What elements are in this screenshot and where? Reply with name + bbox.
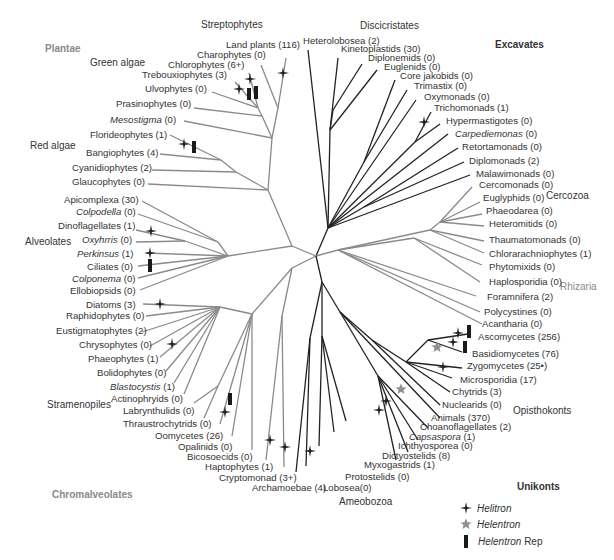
svg-text:Helentron: Helentron xyxy=(477,519,521,530)
taxon-label: Foramnifera (2) xyxy=(487,291,553,302)
taxon-label: Hypermastigotes (0) xyxy=(446,115,532,126)
legend-helentron-rep: Helentron Rep xyxy=(464,535,543,548)
helentron-icon xyxy=(461,519,472,530)
taxon-label: Bolidophytes (0) xyxy=(97,367,166,378)
helitron-icon xyxy=(233,83,245,95)
taxon-label: Haplosporidia (0) xyxy=(489,276,562,287)
taxon-label: Bangiophytes (4) xyxy=(86,147,159,158)
helitron-icon xyxy=(219,406,231,418)
taxon-label: Florideophytes (1) xyxy=(90,129,167,140)
helentron-icon xyxy=(396,384,407,395)
taxon-label: Capsaspora (1) xyxy=(409,431,475,442)
helitron-icon xyxy=(264,434,276,446)
taxon-label: Mesostigma (0) xyxy=(110,114,176,125)
taxon-label: Euglyphids (0) xyxy=(483,192,544,203)
helentron-rep-icon xyxy=(254,86,258,99)
helentron-rep-icon xyxy=(467,325,471,338)
taxon-label: Heterolobosea (2) xyxy=(303,35,380,46)
helitron-icon xyxy=(277,67,289,79)
taxon-label: Zygomycetes (25•) xyxy=(467,360,547,371)
taxon-label: Dictyostelids (8) xyxy=(382,450,450,461)
helitron-icon xyxy=(279,441,291,453)
taxon-label: Phaeophytes (1) xyxy=(88,353,158,364)
group-alveolates: Alveolates xyxy=(25,236,71,247)
taxon-label: Retortamonads (0) xyxy=(462,141,542,152)
taxon-label: Trebouxiophytes (3) xyxy=(142,69,227,80)
taxon-label: Lobosea(0) xyxy=(323,482,372,493)
phylogenetic-tree: Plantae Excavates Chromalveolates Unikon… xyxy=(0,0,614,560)
group-opisthokonts: Opisthokonts xyxy=(513,405,571,416)
taxon-label: Nuclearids (0) xyxy=(442,399,502,410)
legend: Helitron Helentron Helentron Rep xyxy=(460,502,543,548)
helentron-rep-icon xyxy=(148,259,152,272)
taxon-label: Chytrids (3) xyxy=(452,386,502,397)
group-red-algae: Red algae xyxy=(30,140,76,151)
taxon-label: Basidiomycetes (76) xyxy=(472,348,559,359)
taxon-label: Archamoebae (4) xyxy=(252,482,326,493)
taxon-label: Oxyhrris (0) xyxy=(82,234,132,245)
helitron-icon xyxy=(145,225,157,237)
taxon-label: Oomycetes (26) xyxy=(155,430,223,441)
taxon-label: Heteromitids (0) xyxy=(489,218,557,229)
taxon-label: Apicomplexa (30) xyxy=(64,194,139,205)
helentron-icon xyxy=(432,342,443,353)
rhizaria-branches xyxy=(338,187,484,324)
helitron-icon xyxy=(144,247,156,259)
group-cercozoa: Cercozoa xyxy=(546,190,589,201)
taxon-label: Microsporidia (17) xyxy=(460,374,537,385)
svg-text:Helitron: Helitron xyxy=(477,503,512,514)
helentron-rep-icon xyxy=(463,341,467,353)
taxon-label: Cercomonads (0) xyxy=(479,179,553,190)
supergroup-plantae: Plantae xyxy=(45,43,81,54)
supergroup-rhizaria: Rhizaria xyxy=(560,281,597,292)
helitron-icon xyxy=(154,298,166,310)
taxon-label: Trimastix (0) xyxy=(414,80,467,91)
taxon-label: Chrysophytes (0) xyxy=(79,339,152,350)
helentron-rep-icon xyxy=(192,141,196,153)
taxon-label: Ciliates (0) xyxy=(87,261,133,272)
taxon-label: Raphidophytes (0) xyxy=(66,310,144,321)
supergroup-excavates: Excavates xyxy=(495,39,544,50)
taxon-label: Thaumatomonads (0) xyxy=(489,234,581,245)
taxon-label: Blastocystis (1) xyxy=(110,381,175,392)
helentron-rep-icon xyxy=(247,88,251,100)
helentron-rep-icon xyxy=(464,535,468,548)
helitron-icon xyxy=(452,327,464,339)
taxon-label: Acantharia (0) xyxy=(482,318,542,329)
taxon-label: Actinophryids (0) xyxy=(111,393,183,404)
taxon-label: Glaucophytes (0) xyxy=(72,176,145,187)
helentron-rep-icon xyxy=(228,393,232,405)
taxon-label: Dinoflagellates (1) xyxy=(58,220,135,231)
supergroup-chromalveolates: Chromalveolates xyxy=(52,489,133,500)
taxon-label: Ellobiopsids (0) xyxy=(70,285,136,296)
taxon-label: Haptophytes (1) xyxy=(205,461,273,472)
helitron-icon xyxy=(166,338,178,350)
helitron-icon xyxy=(447,336,459,348)
group-ameobozoa: Ameobozoa xyxy=(339,496,393,507)
taxon-label: Oxymonads (0) xyxy=(424,91,490,102)
svg-text:Helentron Rep: Helentron Rep xyxy=(478,536,543,547)
supergroup-unikonts: Unikonts xyxy=(517,481,560,492)
taxon-label: Polycystines (0) xyxy=(484,306,552,317)
taxon-label: Colpodella (0) xyxy=(76,206,136,217)
group-green-algae: Green algae xyxy=(90,57,145,68)
taxon-label: Diatoms (3) xyxy=(86,299,136,310)
taxon-label: Diplomonads (2) xyxy=(469,155,539,166)
taxon-label: Eustigmatophytes (2) xyxy=(56,325,147,336)
taxon-label: Labrynthulids (0) xyxy=(123,405,194,416)
taxon-label: Prasinophytes (0) xyxy=(116,98,191,109)
taxon-label: Trichomonads (1) xyxy=(434,102,509,113)
taxon-label: Ascomycetes (256) xyxy=(478,331,560,342)
taxon-label: Phytomixids (0) xyxy=(489,261,555,272)
taxon-label: Animals (370) xyxy=(431,412,490,423)
group-streptophytes: Streptophytes xyxy=(201,19,263,30)
taxon-label: Perkinsus (1) xyxy=(77,248,134,259)
helitron-icon xyxy=(437,361,449,373)
taxon-label: Carpediemonas (0) xyxy=(455,128,537,139)
taxon-label: Ulvophytes (0) xyxy=(145,83,207,94)
legend-helentron: Helentron xyxy=(461,519,521,531)
helitron-icon xyxy=(460,502,472,514)
taxon-label: Malawimonads (0) xyxy=(476,168,554,179)
legend-helitron: Helitron xyxy=(460,502,512,514)
taxon-label: Chlorarachniophytes (1) xyxy=(489,248,591,259)
